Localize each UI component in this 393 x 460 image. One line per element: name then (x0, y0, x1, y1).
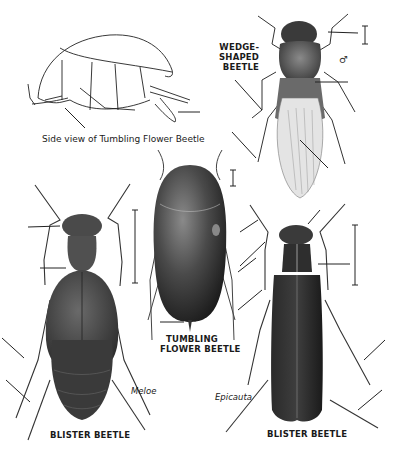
male-symbol: ♂ (339, 54, 348, 66)
tumbling-flower-beetle (132, 150, 265, 340)
beetle-plate-illustration (0, 0, 393, 460)
blister-beetle-meloe-label: BLISTER BEETLE (50, 431, 130, 441)
tumbling-flower-label: TUMBLING FLOWER BEETLE (160, 335, 224, 355)
wedge-shaped-label: WEDGE- SHAPED BEETLE (219, 43, 259, 72)
blister-beetle-epicauta-label: BLISTER BEETLE (267, 430, 347, 440)
side-view-tumbling-flower-beetle (28, 35, 200, 128)
blister-beetle-meloe (2, 184, 150, 440)
meloe-genus-label: Meloe (131, 387, 156, 397)
epicauta-genus-label: Epicauta (215, 393, 252, 403)
wedge-label-line3: BEETLE (219, 63, 259, 73)
tumbling-label-line2: FLOWER BEETLE (160, 345, 224, 355)
side-view-caption: Side view of Tumbling Flower Beetle (42, 134, 205, 144)
